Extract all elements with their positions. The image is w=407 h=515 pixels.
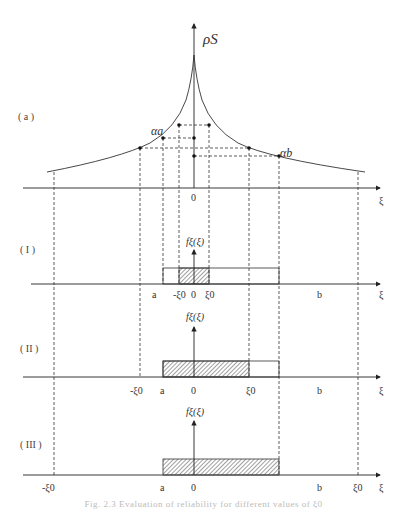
- xi-axis-label: ξ: [379, 195, 384, 207]
- rho-s-label: ρS: [202, 31, 218, 47]
- guide-lines: [54, 125, 358, 475]
- tick-xi0: ξ0: [205, 289, 214, 301]
- panel-II-label: ( II ): [20, 343, 38, 355]
- tick-neg-xi0: -ξ0: [130, 385, 143, 397]
- tick-0: 0: [191, 482, 196, 493]
- tick-0: 0: [191, 385, 196, 396]
- figure-caption: Fig. 2.3 Evaluation of reliability for d…: [0, 499, 407, 509]
- f-xi-label-II: fξ(ξ): [186, 311, 205, 323]
- tick-xi0: ξ0: [246, 385, 255, 397]
- tick-neg-xi0: -ξ0: [42, 482, 55, 494]
- tick-b: b: [317, 289, 322, 300]
- panel-I-label: ( I ): [20, 244, 35, 256]
- tick-xi0: ξ0: [353, 482, 362, 494]
- f-xi-label-I: fξ(ξ): [186, 236, 205, 248]
- tick-a: a: [152, 289, 157, 300]
- panel-I: fξ(ξ) ( I ) a -ξ0 0 ξ0 b ξ: [20, 236, 384, 301]
- alpha-b-label: αb: [280, 146, 292, 160]
- reliability-diagram: ρS ( a ) αa αb 0 ξ fξ(ξ) ( I ) a -ξ0 0 ξ…: [0, 0, 407, 515]
- panel-III: fξ(ξ) ( III ) -ξ0 a 0 b ξ0 ξ: [20, 406, 384, 494]
- alpha-a-label: αa: [151, 124, 163, 138]
- tick-0: 0: [191, 289, 196, 300]
- xi-axis-label: ξ: [379, 289, 384, 301]
- panel-a: ρS ( a ) αa αb 0 ξ: [18, 24, 384, 207]
- xi-axis-label: ξ: [379, 385, 384, 397]
- tick-a: a: [160, 385, 165, 396]
- panel-III-label: ( III ): [20, 439, 42, 451]
- panel-a-label: ( a ): [18, 111, 34, 123]
- xi-axis-label: ξ: [379, 482, 384, 494]
- tick-neg-xi0: -ξ0: [173, 289, 186, 301]
- tick-b: b: [317, 385, 322, 396]
- f-xi-label-III: fξ(ξ): [186, 406, 205, 418]
- tick-b: b: [317, 482, 322, 493]
- origin-label: 0: [191, 192, 196, 203]
- panel-II: fξ(ξ) ( II ) -ξ0 a 0 ξ0 b ξ: [20, 311, 384, 397]
- tick-a: a: [160, 482, 165, 493]
